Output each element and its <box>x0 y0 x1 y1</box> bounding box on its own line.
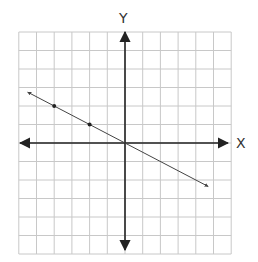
coordinate-plane <box>0 0 258 262</box>
data-point <box>52 104 56 108</box>
y-axis-label: Y <box>119 10 128 26</box>
data-point <box>88 123 92 127</box>
x-axis-label: X <box>236 135 246 151</box>
